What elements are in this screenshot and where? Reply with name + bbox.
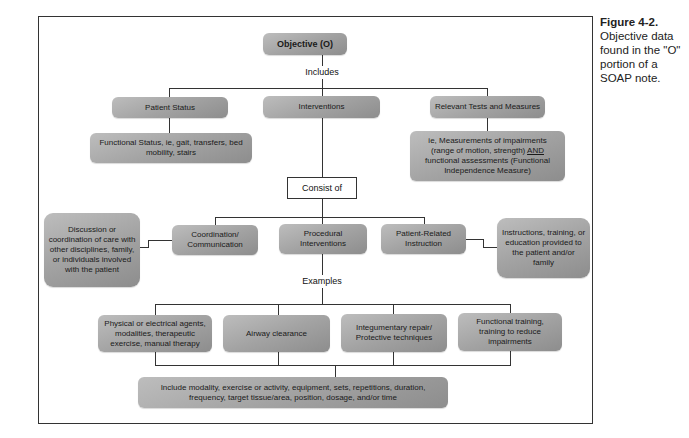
connector-line — [169, 88, 487, 89]
connector-line — [148, 240, 172, 241]
node-label: Integumentary repair/ Protective techniq… — [345, 323, 443, 343]
figure-label: Figure 4-2. — [600, 15, 686, 29]
connector-line — [424, 217, 425, 224]
connector-line — [510, 304, 511, 313]
connector-line — [510, 351, 511, 365]
figure-caption: Figure 4-2. Objective data found in the … — [600, 15, 686, 85]
connector-line — [169, 88, 170, 97]
node-summary: Include modality, exercise or activity, … — [138, 377, 448, 408]
connector-line — [322, 55, 323, 66]
node-label: Relevant Tests and Measures — [435, 102, 540, 112]
node-measurements: ie, Measurements of impairments (range o… — [410, 131, 565, 181]
connector-line — [487, 88, 488, 96]
connector-line — [322, 288, 323, 304]
connector-line — [322, 199, 323, 224]
connector-line — [278, 352, 279, 365]
node-discussion: Discussion or coordination of care with … — [44, 213, 140, 287]
text-emphasis: AND — [527, 146, 544, 155]
text-segment: functional assessments (Functional Indep… — [425, 156, 550, 175]
node-label: Patient Status — [145, 103, 195, 113]
connector-line — [393, 304, 394, 314]
label-examples: Examples — [297, 276, 347, 286]
node-label: Instructions, training, or education pro… — [501, 228, 586, 268]
connector-line — [148, 240, 149, 248]
node-label: Functional Status, ie, gait, transfers, … — [94, 138, 248, 158]
connector-line — [155, 365, 511, 366]
node-label: Functional training, training to reduce … — [462, 317, 558, 347]
connector-line — [483, 247, 497, 248]
node-label: Include modality, exercise or activity, … — [152, 383, 434, 403]
node-label: Coordination/ Communication — [176, 230, 254, 250]
label-includes: Includes — [297, 67, 347, 77]
connector-line — [169, 118, 170, 133]
connector-line — [140, 247, 148, 248]
connector-line — [155, 352, 156, 365]
connector-line — [322, 254, 323, 275]
connector-line — [215, 217, 216, 225]
node-relevant-tests: Relevant Tests and Measures — [430, 96, 545, 118]
node-objective: Objective (O) — [263, 33, 347, 55]
node-label: Physical or electrical agents, modalitie… — [102, 319, 208, 349]
node-functional-training: Functional training, training to reduce … — [458, 313, 562, 351]
connector-line — [487, 118, 488, 131]
connector-line — [155, 304, 156, 315]
connector-line — [483, 239, 484, 247]
connector-line — [466, 239, 483, 240]
node-integumentary: Integumentary repair/ Protective techniq… — [341, 314, 447, 352]
node-coordination: Coordination/ Communication — [172, 225, 258, 255]
node-label: Patient-Related Instruction — [385, 229, 462, 249]
node-airway-clearance: Airway clearance — [223, 315, 330, 352]
connector-line — [322, 79, 323, 177]
node-interventions: Interventions — [263, 96, 380, 118]
node-physical-agents: Physical or electrical agents, modalitie… — [98, 315, 212, 352]
connector-line — [278, 304, 279, 315]
connector-line — [155, 304, 511, 305]
node-label: Objective (O) — [277, 39, 333, 49]
node-label: ie, Measurements of impairments (range o… — [418, 136, 557, 176]
node-label: Procedural Interventions — [283, 229, 363, 249]
connector-line — [393, 352, 394, 365]
connector-line — [335, 365, 336, 377]
figure-caption-text: Objective data found in the "O" portion … — [600, 30, 680, 84]
node-procedural: Procedural Interventions — [279, 224, 367, 254]
node-patient-related: Patient-Related Instruction — [381, 224, 466, 254]
node-functional-status: Functional Status, ie, gait, transfers, … — [90, 133, 252, 163]
node-label: Airway clearance — [246, 329, 307, 339]
connector-line — [215, 217, 424, 218]
node-patient-status: Patient Status — [112, 97, 228, 118]
node-label: Discussion or coordination of care with … — [48, 225, 136, 275]
label-consist-of: Consist of — [287, 177, 357, 199]
node-label: Interventions — [299, 102, 345, 112]
node-instructions: Instructions, training, or education pro… — [497, 218, 590, 278]
